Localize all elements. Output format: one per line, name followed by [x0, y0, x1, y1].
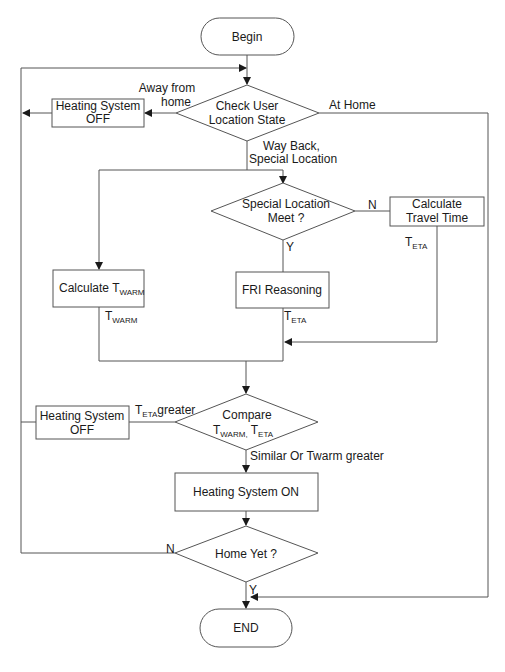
similar-label: Similar Or Twarm greater	[250, 449, 384, 463]
begin-label: Begin	[232, 30, 263, 44]
special-y-label: Y	[286, 240, 294, 254]
away-label-line2: home	[161, 95, 191, 109]
heating-off-2-line2: OFF	[70, 423, 94, 437]
flowchart-canvas: Begin Check User Location State Heating …	[0, 0, 505, 672]
calc-travel-line1: Calculate	[412, 197, 462, 211]
calc-twarm-prefix: Calculate T	[59, 281, 120, 295]
compare-line1: Compare	[222, 408, 272, 422]
special-location-line1: Special Location	[242, 197, 330, 211]
away-label-line1: Away from	[139, 81, 195, 95]
teta-greater-label: TETAgreater	[135, 403, 195, 419]
heating-off-1-line2: OFF	[86, 112, 110, 126]
fri-reasoning-label: FRI Reasoning	[242, 283, 322, 297]
way-back-line1: Way Back,	[263, 139, 320, 153]
at-home-label: At Home	[329, 98, 376, 112]
fri-teta-label: TETA	[284, 309, 307, 325]
heating-on-label: Heating System ON	[193, 485, 299, 499]
heating-off-2-line1: Heating System	[40, 409, 125, 423]
special-n-label: N	[368, 198, 377, 212]
home-n-label: N	[166, 542, 175, 556]
calc-twarm-sub: WARM	[119, 288, 144, 297]
calc-travel-line2: Travel Time	[406, 211, 469, 225]
check-location-line1: Check User	[216, 99, 279, 113]
twarm-edge-label: TWARM	[105, 309, 138, 325]
travel-teta-label: TETA	[405, 235, 428, 251]
node-compare	[175, 394, 318, 450]
way-back-line2: Special Location	[249, 152, 337, 166]
home-y-label: Y	[249, 583, 257, 597]
heating-off-1-line1: Heating System	[56, 99, 141, 113]
special-location-line2: Meet ?	[268, 211, 305, 225]
check-location-line2: Location State	[209, 113, 286, 127]
end-label: END	[233, 621, 259, 635]
home-yet-label: Home Yet ?	[215, 547, 277, 561]
